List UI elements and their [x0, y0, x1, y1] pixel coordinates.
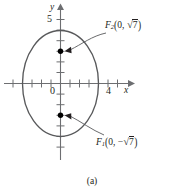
y-tick-label-5: 5 [47, 14, 52, 24]
focus-point-upper [58, 49, 63, 54]
focus-label-F2-radical: √7 [127, 19, 138, 30]
focus-label-F1-close-paren: ) [134, 135, 137, 148]
leader-arrowhead-lower [65, 113, 72, 119]
focus-point-lower [58, 113, 63, 118]
focus-label-F1-open-paren: ( [105, 135, 108, 148]
focus-label-F2-open-paren: ( [114, 18, 117, 31]
x-axis-arrowhead [128, 80, 135, 87]
figure-caption: (a) [0, 176, 184, 186]
y-axis-label: y [50, 3, 54, 13]
leader-arrowhead-upper [65, 47, 72, 53]
x-tick-label-4: 4 [106, 86, 111, 96]
x-axis-label: x [124, 86, 128, 96]
ellipse-figure: y x 5 0 4 F2(0, √7) F1(0, −√7) (a) [0, 0, 184, 192]
focus-label-F2-close-paren: ) [138, 18, 141, 31]
origin-label: 0 [50, 86, 55, 96]
focus-label-F1-radical: √7 [123, 136, 134, 147]
focus-label-F1: F1(0, −√7) [96, 136, 137, 147]
graph-canvas [0, 0, 184, 192]
focus-label-F2: F2(0, √7) [105, 19, 141, 30]
y-axis-arrowhead [57, 4, 64, 11]
